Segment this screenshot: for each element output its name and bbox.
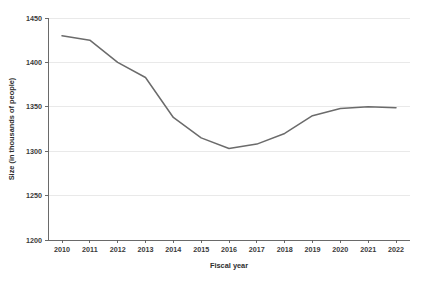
x-tick-label: 2017 <box>249 245 265 254</box>
y-tick-label: 1450 <box>26 14 42 23</box>
x-tick-label: 2021 <box>360 245 376 254</box>
x-tick-label: 2019 <box>305 245 321 254</box>
x-tick-label: 2013 <box>138 245 154 254</box>
y-axis-title: Size (in thousands of people) <box>7 77 16 180</box>
y-tick-label: 1300 <box>26 147 42 156</box>
x-tick-label: 2010 <box>54 245 70 254</box>
x-tick-label: 2014 <box>165 245 181 254</box>
y-tick-label: 1250 <box>26 191 42 200</box>
y-tick-label: 1350 <box>26 102 42 111</box>
x-axis-title: Fiscal year <box>210 261 248 270</box>
x-tick-label: 2016 <box>221 245 237 254</box>
chart-canvas: 120012501300135014001450 201020112012201… <box>0 0 423 284</box>
x-tick-label: 2011 <box>82 245 98 254</box>
x-tick-label: 2020 <box>332 245 348 254</box>
x-tick-label: 2022 <box>388 245 404 254</box>
x-tick-label: 2015 <box>193 245 209 254</box>
x-tick-label: 2012 <box>110 245 126 254</box>
line-chart: 120012501300135014001450 201020112012201… <box>0 0 423 284</box>
x-tick-label: 2018 <box>277 245 293 254</box>
y-tick-label: 1200 <box>26 236 42 245</box>
y-tick-label: 1400 <box>26 58 42 67</box>
